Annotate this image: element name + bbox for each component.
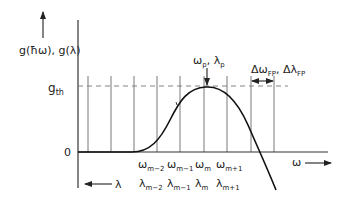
threshold-label: gth: [48, 81, 64, 97]
omega-axis-label: ω: [292, 156, 301, 169]
lambda-tick-labels: λm−2 λm−1 λm λm+1: [139, 177, 240, 192]
zero-label: 0: [64, 146, 71, 159]
omega-tick: ωm−2: [138, 158, 164, 173]
gain-curve-diagram: g(ħω), g(λ) gth 0 ωp, λp ΔωFP, ΔλFP ωm−2…: [0, 0, 347, 204]
lambda-tick: λm−1: [167, 177, 191, 192]
mode-lines: [88, 76, 274, 152]
lambda-tick: λm: [195, 177, 209, 192]
fp-spacing-label: ΔωFP, ΔλFP: [251, 63, 305, 78]
gain-curve: [78, 87, 276, 190]
curve-tick-mark: [176, 102, 177, 105]
omega-tick: ωm: [195, 158, 211, 173]
y-axis-label: g(ħω), g(λ): [19, 44, 81, 57]
omega-tick: ωm+1: [216, 158, 242, 173]
peak-label: ωp, λp: [193, 54, 225, 69]
lambda-tick: λm+1: [216, 177, 240, 192]
omega-tick: ωm−1: [167, 158, 193, 173]
lambda-tick: λm−2: [139, 177, 163, 192]
omega-tick-labels: ωm−2 ωm−1 ωm ωm+1: [138, 158, 242, 173]
lambda-axis-label: λ: [115, 178, 122, 191]
